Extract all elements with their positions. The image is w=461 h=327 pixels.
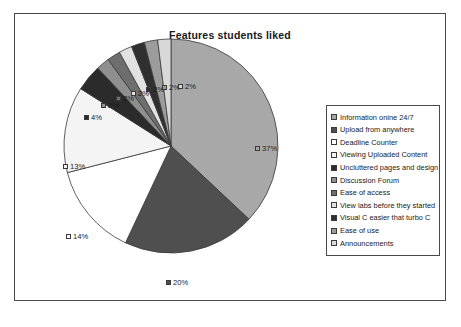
swatch-icon [255, 146, 260, 151]
legend-label: Ease of use [340, 227, 379, 234]
data-label-20: 20% [166, 279, 188, 287]
legend-label: Visual C easier that turbo C [340, 214, 430, 221]
legend-item: Viewing Uploaded Content [331, 149, 435, 162]
legend-label: View labs before they started [340, 202, 435, 209]
legend-item: Announcements [331, 237, 435, 250]
data-label-value: 37% [262, 145, 277, 153]
data-label-value: 14% [73, 233, 88, 241]
legend-swatch-icon [331, 215, 337, 221]
data-label-14: 14% [66, 233, 88, 241]
legend-item: Discussion Forum [331, 174, 435, 187]
data-label-2f: 2% [178, 83, 196, 91]
swatch-icon [131, 91, 136, 96]
legend-swatch-icon [331, 139, 337, 145]
data-label-value: 4% [91, 114, 102, 122]
swatch-icon [84, 115, 89, 120]
legend-swatch-icon [331, 177, 337, 183]
swatch-icon [116, 96, 121, 101]
data-label-value: 2% [185, 83, 196, 91]
legend-label: Discussion Forum [340, 177, 399, 184]
legend-label: Uncluttered pages and design [340, 164, 438, 171]
legend-swatch-icon [331, 114, 337, 120]
legend-item: Ease of use [331, 224, 435, 237]
legend-item: Ease of access [331, 187, 435, 200]
swatch-icon [178, 84, 183, 89]
legend-label: Deadline Counter [340, 139, 398, 146]
swatch-icon [101, 103, 106, 108]
data-label-37: 37% [255, 145, 277, 153]
swatch-icon [166, 280, 171, 285]
chart-frame: Features students liked 37% 20% 14% 13% … [14, 13, 446, 301]
legend-item: Uncluttered pages and design [331, 161, 435, 174]
legend-swatch-icon [331, 228, 337, 234]
legend-label: Viewing Uploaded Content [340, 151, 427, 158]
legend-label: Announcements [340, 240, 393, 247]
data-label-value: 13% [70, 163, 85, 171]
legend-item: Deadline Counter [331, 136, 435, 149]
pie-chart [61, 36, 281, 256]
legend-item: Information onine 24/7 [331, 111, 435, 124]
swatch-icon [146, 87, 151, 92]
legend-swatch-icon [331, 165, 337, 171]
legend-swatch-icon [331, 240, 337, 246]
legend-item: View labs before they started [331, 199, 435, 212]
swatch-icon [162, 85, 167, 90]
chart-legend: Information onine 24/7Upload from anywhe… [326, 105, 440, 256]
legend-swatch-icon [331, 152, 337, 158]
legend-item: Upload from anywhere [331, 124, 435, 137]
data-label-value: 20% [173, 279, 188, 287]
data-label-4: 4% [84, 114, 102, 122]
swatch-icon [63, 164, 68, 169]
legend-label: Ease of access [340, 189, 390, 196]
legend-label: Information onine 24/7 [340, 114, 414, 121]
data-label-value: 2% [108, 102, 119, 110]
swatch-icon [66, 234, 71, 239]
legend-item: Visual C easier that turbo C [331, 212, 435, 225]
legend-swatch-icon [331, 190, 337, 196]
pie-slices [64, 39, 278, 253]
data-label-13: 13% [63, 163, 85, 171]
legend-swatch-icon [331, 127, 337, 133]
legend-label: Upload from anywhere [340, 126, 414, 133]
data-label-2a: 2% [101, 102, 119, 110]
legend-swatch-icon [331, 202, 337, 208]
